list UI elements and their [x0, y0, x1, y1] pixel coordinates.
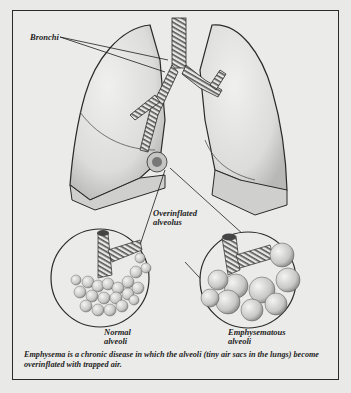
right-lung: [200, 25, 287, 215]
normal-alveoli-label: Normal alveoli: [104, 328, 131, 346]
emphysematous-alveoli-label: Emphysematous alveoli: [228, 328, 286, 346]
overinflated-alveolus-label-line2: alveolus: [153, 218, 197, 227]
normal-alveoli-inset: [51, 229, 151, 327]
emphysematous-alveoli-inset: [200, 232, 300, 328]
normal-alveoli-label-line2: alveoli: [104, 337, 131, 346]
overinflated-alveolus-label: Overinflated alveolus: [153, 209, 197, 227]
figure-caption: Emphysema is a chronic disease in which …: [24, 350, 324, 370]
lungs-illustration: [0, 0, 351, 393]
bronchi-label: Bronchi: [30, 33, 59, 42]
emphysematous-alveoli-label-line2: alveoli: [228, 337, 286, 346]
